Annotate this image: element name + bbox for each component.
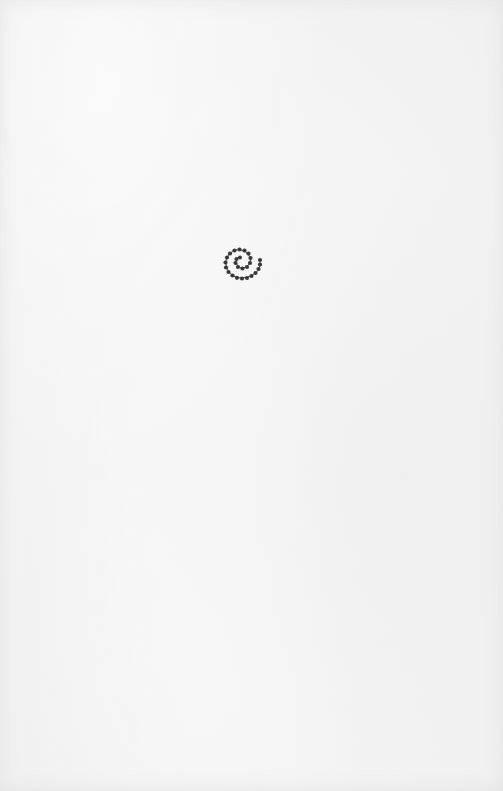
spiral-ornament	[220, 244, 266, 284]
document-page	[0, 0, 503, 791]
beaded-spiral-icon	[220, 244, 266, 284]
